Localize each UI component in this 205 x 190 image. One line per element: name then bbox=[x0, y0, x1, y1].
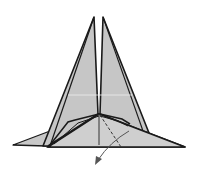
origami-diagram bbox=[0, 0, 205, 190]
origami-fold-illustration bbox=[0, 0, 205, 190]
arrowhead-icon bbox=[95, 156, 102, 165]
